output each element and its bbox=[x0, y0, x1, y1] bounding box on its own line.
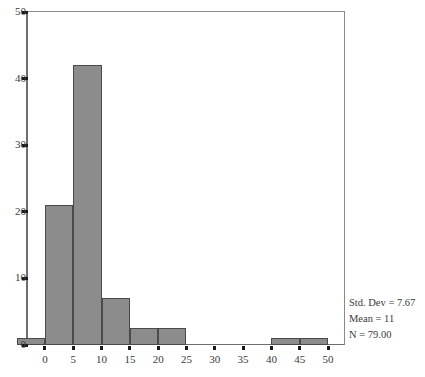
x-axis-tick-label: 30 bbox=[202, 353, 228, 365]
y-axis-tick-label: 40 bbox=[4, 73, 26, 84]
stat-n: N = 79.00 bbox=[349, 327, 425, 343]
y-axis-tick-label: 30 bbox=[4, 139, 26, 150]
x-axis-tick bbox=[100, 346, 103, 350]
x-axis-tick bbox=[43, 346, 46, 350]
histogram-bar bbox=[158, 328, 186, 345]
stat-mean: Mean = 11 bbox=[349, 311, 425, 327]
histogram-bar bbox=[102, 298, 130, 345]
histogram-bar bbox=[130, 328, 158, 345]
y-axis-tick-label: 20 bbox=[4, 206, 26, 217]
histogram-bar bbox=[300, 338, 328, 345]
x-axis-tick bbox=[185, 346, 188, 350]
x-axis-tick bbox=[72, 346, 75, 350]
x-axis-tick-label: 45 bbox=[287, 353, 313, 365]
x-axis-tick-label: 35 bbox=[230, 353, 256, 365]
x-axis-tick bbox=[270, 346, 273, 350]
y-axis-tick-label: 50 bbox=[4, 6, 26, 17]
y-axis-tick-label: 10 bbox=[4, 272, 26, 283]
x-axis-tick-label: 50 bbox=[315, 353, 341, 365]
histogram-bar bbox=[45, 205, 73, 345]
plot-area bbox=[28, 12, 345, 345]
x-axis-tick-label: 5 bbox=[60, 353, 86, 365]
x-axis-tick-label: 20 bbox=[145, 353, 171, 365]
x-axis-tick bbox=[128, 346, 131, 350]
x-axis-tick-label: 25 bbox=[174, 353, 200, 365]
x-axis-tick-label: 40 bbox=[258, 353, 284, 365]
x-axis-tick bbox=[213, 346, 216, 350]
histogram-bar bbox=[73, 65, 101, 345]
stat-std-dev: Std. Dev = 7.67 bbox=[349, 295, 425, 311]
x-axis-tick bbox=[327, 346, 330, 350]
histogram-chart: 01020304050 05101520253035404550 Std. De… bbox=[0, 0, 425, 377]
x-axis-tick-label: 10 bbox=[89, 353, 115, 365]
statistics-annotation: Std. Dev = 7.67 Mean = 11 N = 79.00 bbox=[349, 295, 425, 343]
x-axis-tick-label: 0 bbox=[32, 353, 58, 365]
histogram-bar bbox=[271, 338, 299, 345]
x-axis-tick bbox=[157, 346, 160, 350]
x-axis-tick-label: 15 bbox=[117, 353, 143, 365]
y-axis-tick-label: 0 bbox=[4, 339, 26, 350]
x-axis-tick bbox=[298, 346, 301, 350]
x-axis-tick bbox=[242, 346, 245, 350]
